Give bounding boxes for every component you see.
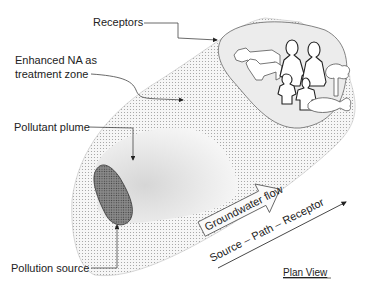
pollution-source-label: Pollution source [11,262,89,274]
plan-view-label: Plan View [283,267,328,278]
receptors-label: Receptors [93,16,144,28]
plan-view-diagram: Groundwater flow Source – Path – Recepto… [0,0,383,292]
fish-icon [308,98,351,113]
treatment-zone-label-line1: Enhanced NA as [15,54,97,66]
treatment-zone-label-line2: treatment zone [15,68,88,80]
receptors-leader [144,23,217,40]
pollutant-plume-label: Pollutant plume [14,121,90,133]
